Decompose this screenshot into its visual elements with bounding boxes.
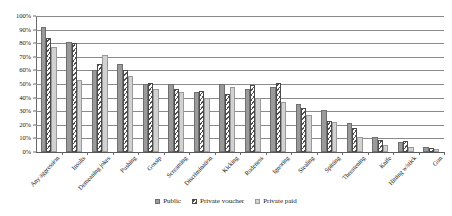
bar-group <box>291 16 317 152</box>
bar-group <box>62 16 88 152</box>
bar-group <box>368 16 394 152</box>
bar-group <box>87 16 113 152</box>
bar <box>332 122 337 152</box>
x-axis-category-label: Any aggression <box>30 155 62 188</box>
x-axis-category-label: Gun <box>431 155 443 167</box>
legend-item[interactable]: Private voucher <box>192 197 244 205</box>
bar <box>383 145 388 152</box>
bar <box>179 92 184 152</box>
bar <box>77 80 82 152</box>
bar-group <box>215 16 241 152</box>
x-axis-category-label: Insults <box>71 155 87 172</box>
legend-item-label: Private paid <box>263 197 297 205</box>
legend-swatch-icon <box>155 199 160 204</box>
y-axis-tick-label: 30% <box>19 108 31 115</box>
bar-group <box>393 16 419 152</box>
y-axis-tick-label: 10% <box>19 135 31 142</box>
x-axis-category-label: Pushing <box>119 155 138 174</box>
bars-layer <box>36 16 444 152</box>
legend-item[interactable]: Private paid <box>255 197 297 205</box>
bar <box>204 98 209 152</box>
legend-item-label: Public <box>163 197 181 205</box>
legend-swatch-icon <box>255 199 260 204</box>
bar-group <box>419 16 445 152</box>
bar <box>408 147 413 152</box>
y-axis-tick-labels: 0%10%20%30%40%50%60%70%80%90%100% <box>0 0 36 152</box>
x-axis-category-label: Threatening <box>342 155 367 182</box>
bar <box>306 115 311 152</box>
bar <box>434 149 439 152</box>
bar <box>255 98 260 152</box>
legend-item[interactable]: Public <box>155 197 181 205</box>
bar-group <box>113 16 139 152</box>
bar <box>128 76 133 152</box>
y-axis-tick-label: 100% <box>16 13 31 20</box>
bar-group <box>342 16 368 152</box>
bar <box>357 137 362 152</box>
x-axis-tick-mark <box>444 152 445 155</box>
x-axis-category-label: Ignoring <box>271 155 290 175</box>
bar <box>281 102 286 152</box>
legend-swatch-icon <box>192 199 197 204</box>
bar-group <box>164 16 190 152</box>
y-axis-tick-label: 0% <box>22 149 31 156</box>
x-axis-category-label: Knife <box>378 155 393 170</box>
bar-group <box>317 16 343 152</box>
bar-chart: 0%10%20%30%40%50%60%70%80%90%100% Any ag… <box>0 0 452 216</box>
plot-area <box>36 16 444 152</box>
bar <box>102 55 107 152</box>
x-axis-category-label: Screaming <box>166 155 189 179</box>
y-axis-tick-label: 40% <box>19 94 31 101</box>
y-axis-tick-label: 60% <box>19 67 31 74</box>
chart-legend: PublicPrivate voucherPrivate paid <box>0 197 452 205</box>
y-axis-tick-label: 80% <box>19 40 31 47</box>
y-axis-tick-label: 50% <box>19 81 31 88</box>
y-axis-tick-label: 20% <box>19 122 31 129</box>
x-axis-category-labels: Any aggressionInsultsDemeaning jokesPush… <box>36 153 444 198</box>
bar <box>230 87 235 152</box>
x-axis-category-label: Gossip <box>146 155 163 172</box>
bar-group <box>36 16 62 152</box>
x-axis-category-label: Stealing <box>297 155 316 174</box>
x-axis-category-label: Rudeness <box>244 155 265 177</box>
bar-group <box>266 16 292 152</box>
bar <box>51 47 56 152</box>
bar-group <box>138 16 164 152</box>
y-axis-tick-label: 70% <box>19 54 31 61</box>
bar-group <box>189 16 215 152</box>
legend-item-label: Private voucher <box>200 197 244 205</box>
x-axis-category-label: Kicking <box>221 155 240 174</box>
bar <box>153 89 158 152</box>
bar-group <box>240 16 266 152</box>
y-axis-tick-label: 90% <box>19 26 31 33</box>
x-axis-category-label: Spitting <box>323 155 341 174</box>
